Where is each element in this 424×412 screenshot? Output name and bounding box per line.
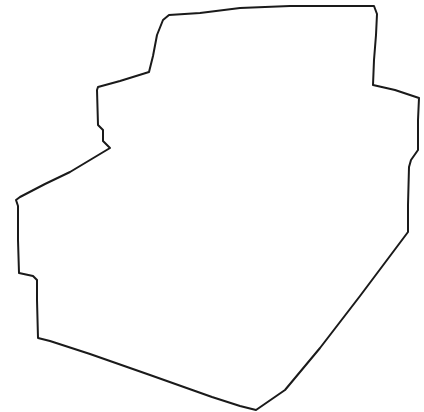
outline-shape <box>0 0 424 412</box>
drawing-canvas <box>0 0 424 412</box>
outline-path <box>16 6 419 410</box>
